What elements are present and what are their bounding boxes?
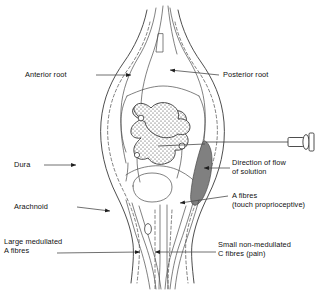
label-a-fibres: A fibres(touch proprioceptive) xyxy=(232,191,305,210)
label-large-medullated-line2: A fibres xyxy=(4,246,29,255)
label-posterior-root: Posterior root xyxy=(223,70,268,79)
label-direction-of-flow: Direction of flowof solution xyxy=(232,158,286,177)
label-small-non-medullated-c-fibres: Small non-medullatedC fibres (pain) xyxy=(218,240,291,259)
label-direction-line2: of solution xyxy=(232,167,267,176)
injected-solution-bolus xyxy=(191,141,212,205)
label-dura: Dura xyxy=(14,160,30,169)
label-large-medullated-a-fibres: Large medullatedA fibres xyxy=(4,237,62,256)
label-small-c-line1: Small non-medullated xyxy=(218,240,291,249)
spinal-nerve-root-diagram: Anterior root Posterior root Dura Arachn… xyxy=(0,0,326,291)
label-a-fibres-line2: (touch proprioceptive) xyxy=(232,200,305,209)
label-a-fibres-line1: A fibres xyxy=(232,191,257,200)
label-direction-line1: Direction of flow xyxy=(232,158,286,167)
label-small-c-line2: C fibres (pain) xyxy=(218,249,266,258)
label-anterior-root: Anterior root xyxy=(25,70,67,79)
leader-large-medullated xyxy=(57,252,140,253)
label-arachnoid: Arachnoid xyxy=(14,202,48,211)
leader-a-fibres xyxy=(180,196,228,203)
leader-arachnoid xyxy=(77,207,110,211)
hypodermic-needle xyxy=(206,133,314,151)
label-large-medullated-line1: Large medullated xyxy=(4,237,62,246)
descending-nerve-fibre-bundle xyxy=(126,200,199,289)
